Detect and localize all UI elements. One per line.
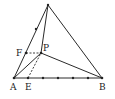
tick-point-5 [87, 77, 89, 79]
tick-point-2 [42, 77, 44, 79]
geometry-diagram: A E B F P [0, 0, 115, 99]
label-e: E [25, 82, 32, 92]
label-p: P [43, 43, 49, 53]
label-b: B [99, 82, 106, 92]
tick-point-e [27, 77, 29, 79]
point-f [25, 52, 28, 55]
point-p [40, 52, 43, 55]
point-b [101, 77, 104, 80]
tick-point-3 [57, 77, 59, 79]
tick-point-4 [72, 77, 74, 79]
point-on-apex-a [35, 28, 37, 30]
label-f: F [16, 48, 22, 58]
point-a [13, 77, 16, 80]
dashed-e-p [28, 53, 41, 78]
point-apex [47, 4, 49, 6]
label-a: A [9, 82, 17, 92]
